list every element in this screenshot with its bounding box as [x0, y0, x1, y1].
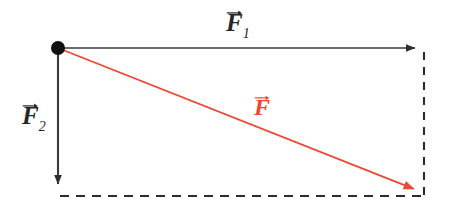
label-f2-subscript: 2 [39, 119, 46, 134]
vector-diagram-canvas [0, 0, 450, 211]
label-resultant-glyph: F [254, 95, 270, 119]
vector-arrow-resultant [58, 48, 414, 189]
vector-diagram-figure: F 1 F 2 F [0, 0, 450, 211]
label-resultant-f: F [254, 95, 270, 119]
label-resultant-symbol: F [254, 94, 270, 120]
origin-point-marker [51, 41, 65, 55]
label-f1-subscript: 1 [243, 26, 250, 41]
label-f2-glyph: F [22, 103, 39, 128]
label-f2-symbol: F [22, 102, 39, 129]
label-f2: F 2 [22, 103, 46, 128]
label-f1: F 1 [226, 10, 250, 35]
label-f1-symbol: F [226, 9, 243, 36]
label-f1-glyph: F [226, 10, 243, 35]
